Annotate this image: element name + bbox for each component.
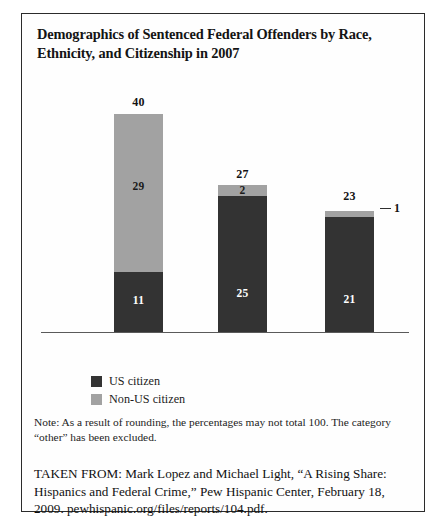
x-axis-line bbox=[41, 332, 409, 333]
bar-segment-value-hispanic-us-citizen: 11 bbox=[114, 294, 163, 306]
bar-stack-hispanic[interactable]: 29 11 bbox=[114, 114, 163, 332]
legend-label-non-us-citizen: Non-US citizen bbox=[109, 393, 185, 406]
legend-swatch-us-citizen bbox=[91, 376, 102, 387]
bar-segment-hispanic-us-citizen[interactable]: 11 bbox=[114, 272, 163, 332]
legend-item-non-us-citizen[interactable]: Non-US citizen bbox=[91, 392, 185, 407]
legend-label-us-citizen: US citizen bbox=[109, 375, 160, 388]
bar-total-label-black: 23 bbox=[311, 189, 388, 204]
chart-title: Demographics of Sentenced Federal Offend… bbox=[37, 25, 409, 63]
bar-segment-value-white-us-citizen: 25 bbox=[218, 287, 267, 299]
chart-plot-area: 40 29 11 Hispanic 27 2 25 bbox=[22, 76, 426, 356]
chart-legend: US citizen Non-US citizen bbox=[91, 374, 185, 410]
bar-segment-value-white-non-us-citizen: 2 bbox=[218, 184, 267, 196]
bar-segment-white-non-us-citizen[interactable]: 2 bbox=[218, 185, 267, 196]
bar-segment-black-us-citizen[interactable]: 21 bbox=[325, 217, 374, 332]
chart-note: Note: As a result of rounding, the perce… bbox=[34, 415, 415, 444]
legend-item-us-citizen[interactable]: US citizen bbox=[91, 374, 185, 389]
bar-stack-black[interactable]: 21 bbox=[325, 211, 374, 332]
bar-segment-callout-black-non-us-citizen: 1 bbox=[380, 201, 400, 216]
bar-total-label-white: 27 bbox=[204, 167, 281, 182]
bar-segment-value-black-non-us-citizen: 1 bbox=[394, 201, 400, 215]
bar-stack-white[interactable]: 2 25 bbox=[218, 185, 267, 332]
legend-swatch-non-us-citizen bbox=[91, 394, 102, 405]
bar-segment-value-hispanic-non-us-citizen: 29 bbox=[114, 180, 163, 192]
chart-source-attribution: TAKEN FROM: Mark Lopez and Michael Light… bbox=[34, 465, 414, 518]
callout-leader-line bbox=[380, 208, 391, 209]
bar-total-label-hispanic: 40 bbox=[100, 95, 177, 110]
bar-segment-white-us-citizen[interactable]: 25 bbox=[218, 196, 267, 332]
figure-frame: Demographics of Sentenced Federal Offend… bbox=[21, 13, 425, 512]
bar-segment-hispanic-non-us-citizen[interactable]: 29 bbox=[114, 114, 163, 272]
bar-segment-value-black-us-citizen: 21 bbox=[325, 293, 374, 305]
